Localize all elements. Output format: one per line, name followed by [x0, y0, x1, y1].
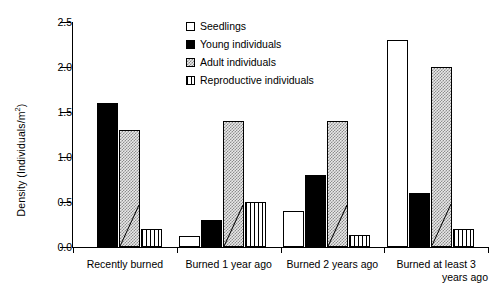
- bar-repro: [141, 229, 162, 247]
- y-tick: 1.0: [0, 157, 72, 158]
- y-tick: 2.0: [0, 67, 72, 68]
- legend-swatch-adult: [186, 58, 195, 67]
- y-tick: 0.0: [0, 247, 72, 248]
- legend-item: Adult individuals: [186, 54, 314, 70]
- y-tick-label: 2.5: [10, 17, 72, 27]
- x-axis-label: Burned at least 3years ago: [384, 258, 488, 283]
- bar-seedlings: [179, 236, 200, 247]
- x-axis-label: Burned 1 year ago: [177, 258, 281, 271]
- bar-hatch-accent: [432, 204, 451, 246]
- bar-young: [409, 193, 430, 247]
- bar-group: [75, 22, 162, 247]
- y-tick: 2.5: [0, 22, 72, 23]
- bar-young: [305, 175, 326, 247]
- y-tick-label: 2.0: [10, 62, 72, 72]
- legend-item: Reproductive individuals: [186, 72, 314, 88]
- legend-swatch-young: [186, 40, 195, 49]
- bar-young: [201, 220, 222, 247]
- legend-label: Reproductive individuals: [200, 75, 314, 86]
- bar-repro: [453, 229, 474, 247]
- x-axis-label-line: Burned 2 years ago: [281, 258, 385, 271]
- legend-label: Adult individuals: [200, 57, 276, 68]
- bar-adult: [223, 121, 244, 247]
- bar-hatch-accent: [120, 205, 139, 246]
- x-axis-label-line: Burned at least 3: [384, 258, 488, 271]
- y-tick-label: 0.5: [10, 197, 72, 207]
- legend-item: Young individuals: [186, 36, 314, 52]
- legend-label: Seedlings: [200, 21, 246, 32]
- bar-seedlings: [387, 40, 408, 247]
- legend-swatch-repro: [186, 76, 195, 85]
- y-tick: 0.5: [0, 202, 72, 203]
- legend-item: Seedlings: [186, 18, 314, 34]
- bar-repro: [349, 235, 370, 247]
- x-tick-mark: [488, 247, 489, 253]
- bar-young: [97, 103, 118, 247]
- chart-legend: SeedlingsYoung individualsAdult individu…: [186, 18, 314, 90]
- bar-seedlings: [283, 211, 304, 247]
- x-axis-label-line: Recently burned: [73, 258, 177, 271]
- x-axis-label-line: years ago: [384, 271, 488, 284]
- x-tick-mark: [281, 247, 282, 253]
- y-tick-label: 1.5: [10, 107, 72, 117]
- bar-group: [387, 22, 474, 247]
- bar-adult: [119, 130, 140, 247]
- x-tick-mark: [384, 247, 385, 253]
- bar-hatch-accent: [328, 205, 347, 246]
- x-axis-label: Recently burned: [73, 258, 177, 271]
- bar-adult: [327, 121, 348, 247]
- x-axis-label-line: Burned 1 year ago: [177, 258, 281, 271]
- bar-adult: [431, 67, 452, 247]
- bar-repro: [245, 202, 266, 247]
- y-tick-label: 0.0: [10, 242, 72, 252]
- legend-swatch-seedlings: [186, 22, 195, 31]
- x-tick-mark: [73, 247, 74, 253]
- x-axis-label: Burned 2 years ago: [281, 258, 385, 271]
- bar-hatch-accent: [224, 205, 243, 246]
- legend-label: Young individuals: [200, 39, 281, 50]
- y-tick: 1.5: [0, 112, 72, 113]
- bar-chart: Density (Individuals/m2) 0.00.51.01.52.0…: [0, 0, 502, 300]
- x-tick-mark: [177, 247, 178, 253]
- y-tick-label: 1.0: [10, 152, 72, 162]
